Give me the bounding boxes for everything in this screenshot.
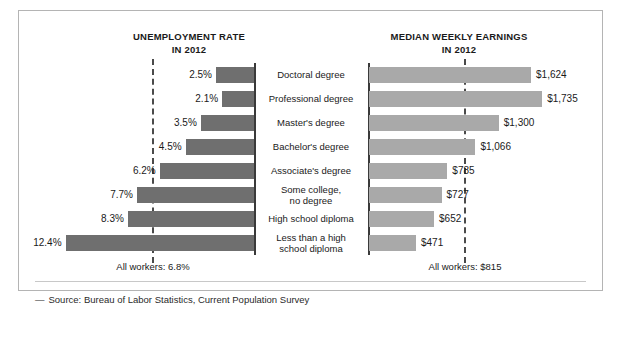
category-label: High school diploma: [258, 207, 364, 231]
unemployment-bar: [186, 139, 254, 155]
unemployment-bar: [216, 67, 254, 83]
chart-figure: UNEMPLOYMENT RATE IN 2012 MEDIAN WEEKLY …: [18, 10, 603, 291]
unemployment-bar: [201, 115, 254, 131]
earnings-bar: [369, 163, 447, 179]
chart-row: 4.5%Bachelor's degree$1,066: [19, 135, 602, 159]
plot-area: 2.5%Doctoral degree$1,6242.1%Professiona…: [19, 11, 602, 290]
earnings-value-label: $471: [421, 235, 443, 251]
category-label: Doctoral degree: [258, 63, 364, 87]
unemployment-bar: [160, 163, 254, 179]
category-label: Some college,no degree: [258, 183, 364, 207]
chart-row: 12.4%Less than a highschool diploma$471: [19, 231, 602, 255]
source-divider: [35, 281, 586, 282]
category-label-line: no degree: [290, 195, 333, 207]
category-label-line: High school diploma: [268, 213, 354, 225]
earnings-bar: [369, 115, 499, 131]
category-label-line: Master's degree: [277, 117, 345, 129]
earnings-value-label: $652: [439, 211, 461, 227]
category-label-line: Bachelor's degree: [273, 141, 349, 153]
category-label-line: Doctoral degree: [277, 69, 345, 81]
category-label-line: Professional degree: [269, 93, 354, 105]
unemployment-value-label: 8.3%: [101, 211, 124, 227]
unemployment-value-label: 12.4%: [33, 235, 61, 251]
unemployment-value-label: 2.1%: [195, 91, 218, 107]
chart-row: 6.2%Associate's degree$785: [19, 159, 602, 183]
source-text: Source: Bureau of Labor Statistics, Curr…: [49, 294, 310, 305]
category-label-line: school diploma: [279, 243, 342, 255]
earnings-bar: [369, 187, 442, 203]
left-all-workers-label: All workers: 6.8%: [63, 261, 243, 272]
category-label-line: Some college,: [281, 184, 341, 196]
unemployment-value-label: 2.5%: [189, 67, 212, 83]
earnings-bar: [369, 91, 542, 107]
category-label: Professional degree: [258, 87, 364, 111]
source-note: —Source: Bureau of Labor Statistics, Cur…: [35, 294, 309, 305]
chart-row: 3.5%Master's degree$1,300: [19, 111, 602, 135]
chart-row: 2.5%Doctoral degree$1,624: [19, 63, 602, 87]
earnings-bar: [369, 67, 531, 83]
unemployment-value-label: 6.2%: [133, 163, 156, 179]
chart-row: 7.7%Some college,no degree$727: [19, 183, 602, 207]
unemployment-value-label: 4.5%: [159, 139, 182, 155]
earnings-value-label: $1,735: [547, 91, 578, 107]
unemployment-bar: [66, 235, 254, 251]
unemployment-value-label: 3.5%: [174, 115, 197, 131]
unemployment-value-label: 7.7%: [110, 187, 133, 203]
category-label-line: Less than a high: [276, 232, 346, 244]
earnings-value-label: $1,624: [536, 67, 567, 83]
earnings-bar: [369, 235, 416, 251]
category-label: Less than a highschool diploma: [258, 231, 364, 255]
chart-row: 2.1%Professional degree$1,735: [19, 87, 602, 111]
earnings-value-label: $1,300: [504, 115, 535, 131]
unemployment-bar: [128, 211, 254, 227]
earnings-bar: [369, 211, 434, 227]
category-label-line: Associate's degree: [271, 165, 351, 177]
category-label: Master's degree: [258, 111, 364, 135]
earnings-bar: [369, 139, 475, 155]
earnings-value-label: $785: [452, 163, 474, 179]
source-dash: —: [35, 294, 45, 305]
right-all-workers-label: All workers: $815: [375, 261, 555, 272]
unemployment-bar: [222, 91, 254, 107]
unemployment-bar: [137, 187, 254, 203]
chart-row: 8.3%High school diploma$652: [19, 207, 602, 231]
earnings-value-label: $727: [447, 187, 469, 203]
category-label: Bachelor's degree: [258, 135, 364, 159]
earnings-value-label: $1,066: [480, 139, 511, 155]
category-label: Associate's degree: [258, 159, 364, 183]
